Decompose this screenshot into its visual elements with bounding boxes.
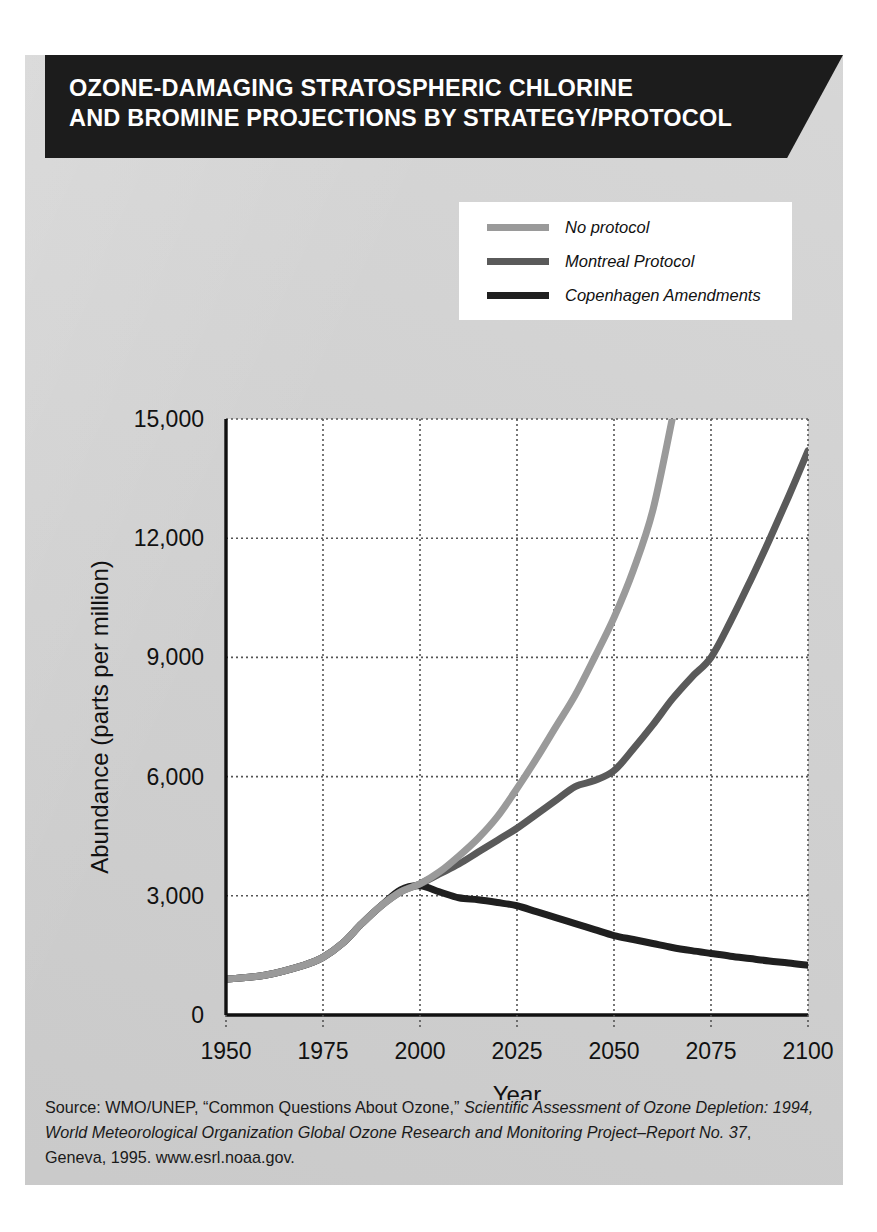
legend-item-no-protocol: No protocol (487, 210, 792, 244)
legend-swatch-montreal-protocol (487, 258, 549, 265)
y-tick-label: 9,000 (146, 644, 204, 670)
chart-plot-area: 03,0006,0009,00012,00015,000195019752000… (25, 300, 843, 1100)
y-tick-label: 12,000 (134, 525, 204, 551)
x-tick-label: 2075 (685, 1038, 736, 1064)
legend-label-montreal-protocol: Montreal Protocol (565, 252, 694, 271)
y-axis-title: Abundance (parts per million) (86, 560, 113, 874)
title-line-2: AND BROMINE PROJECTIONS BY STRATEGY/PROT… (69, 103, 843, 133)
y-tick-label: 6,000 (146, 764, 204, 790)
line-chart: 03,0006,0009,00012,00015,000195019752000… (25, 300, 843, 1100)
x-tick-label: 2000 (394, 1038, 445, 1064)
y-tick-label: 3,000 (146, 883, 204, 909)
legend-label-no-protocol: No protocol (565, 218, 649, 237)
title-banner: OZONE-DAMAGING STRATOSPHERIC CHLORINE AN… (45, 55, 843, 158)
y-tick-label: 0 (191, 1002, 204, 1028)
figure-card: OZONE-DAMAGING STRATOSPHERIC CHLORINE AN… (25, 55, 843, 1185)
source-note: Source: WMO/UNEP, “Common Questions Abou… (45, 1095, 815, 1170)
legend-item-montreal-protocol: Montreal Protocol (487, 244, 792, 278)
x-tick-label: 1950 (200, 1038, 251, 1064)
x-tick-label: 2050 (588, 1038, 639, 1064)
x-tick-label: 2100 (782, 1038, 833, 1064)
y-tick-label: 15,000 (134, 406, 204, 432)
source-prefix: Source: WMO/UNEP, “Common Questions Abou… (45, 1098, 464, 1116)
legend-swatch-copenhagen-amendments (487, 292, 549, 299)
x-tick-label: 1975 (297, 1038, 348, 1064)
x-tick-label: 2025 (491, 1038, 542, 1064)
title-line-1: OZONE-DAMAGING STRATOSPHERIC CHLORINE (69, 73, 843, 103)
legend-swatch-no-protocol (487, 224, 549, 231)
